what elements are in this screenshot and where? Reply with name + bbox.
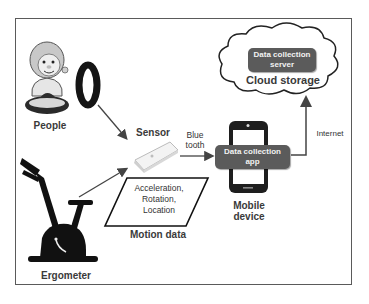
app-label-line2: app xyxy=(215,157,290,167)
arrow-people-to-sensor xyxy=(98,105,126,138)
diagram-canvas: People Ergometer Sensor Blue tooth Accel… xyxy=(0,0,369,304)
data-collection-server-box: Data collection server xyxy=(248,48,316,72)
app-label-line1: Data collection xyxy=(215,147,290,157)
arrow-internet xyxy=(291,98,306,155)
diagram-graphics xyxy=(0,0,369,304)
mobile-label-line1: Mobile xyxy=(228,200,270,211)
motion-location: Location xyxy=(120,205,198,216)
wristband-icon xyxy=(79,65,97,105)
internet-label: Internet xyxy=(310,129,350,139)
motion-data-title: Motion data xyxy=(118,229,198,240)
bluetooth-label: Blue tooth xyxy=(180,130,210,150)
mobile-device-label: Mobile device xyxy=(228,200,270,222)
bluetooth-label-line1: Blue xyxy=(180,130,210,140)
sensor-label: Sensor xyxy=(133,127,173,138)
motion-data-content: Acceleration, Rotation, Location xyxy=(120,183,198,216)
motion-acceleration: Acceleration, xyxy=(120,183,198,194)
server-label-line1: Data collection xyxy=(248,50,316,60)
motion-rotation: Rotation, xyxy=(120,194,198,205)
sensor-device-icon xyxy=(134,142,178,173)
bluetooth-label-line2: tooth xyxy=(180,140,210,150)
people-label: People xyxy=(32,120,68,131)
person-icon xyxy=(25,42,69,114)
ergometer-label: Ergometer xyxy=(40,270,92,281)
cloud-storage-label: Cloud storage xyxy=(242,75,324,86)
arrow-ergometer-to-sensor xyxy=(79,169,126,197)
exercise-bike-icon xyxy=(20,158,98,262)
data-collection-app-box: Data collection app xyxy=(215,145,290,169)
mobile-label-line2: device xyxy=(228,211,270,222)
server-label-line2: server xyxy=(248,60,316,70)
